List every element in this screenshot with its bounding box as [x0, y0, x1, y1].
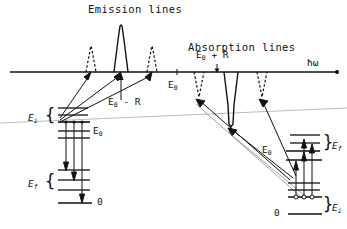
- axis-mark-E0-minus-R: E0 - R: [108, 97, 141, 109]
- figure-canvas: Emission lines Absorption lines ħω E0 + …: [0, 0, 347, 229]
- E0-plus-R-tail: + R: [206, 49, 229, 60]
- E0-minus-R-tail: - R: [118, 96, 141, 107]
- absorption-main-peak: [224, 72, 238, 127]
- absorption-sideband-right: [257, 72, 267, 97]
- right-Ei-sub: i: [338, 207, 342, 215]
- right-E0-sub: 0: [268, 149, 272, 157]
- E0-mid-sub: 0: [174, 84, 178, 92]
- emission-main-peak: [114, 25, 128, 72]
- left-E0-label: E0: [93, 126, 103, 138]
- ground-level-zero-right: 0: [274, 208, 280, 218]
- right-Ei-label: Ei: [332, 203, 342, 215]
- left-Ei-label: Ei: [28, 113, 38, 125]
- ground-level-zero-left: 0: [97, 197, 103, 207]
- right-Ef-sub: f: [338, 145, 342, 153]
- level-scheme-right: [286, 135, 322, 214]
- left-Ef-brace: {: [45, 173, 55, 190]
- cross-figure-guides: [196, 104, 305, 196]
- axis-label-hbar-omega: ħω: [307, 58, 318, 68]
- emission-title: Emission lines: [88, 4, 182, 15]
- left-Ef-label: Ef: [28, 179, 38, 191]
- emission-sideband-right: [147, 46, 157, 72]
- emission-sideband-left: [86, 46, 96, 72]
- axis-mark-E0-plus-R: E0 + R: [196, 50, 229, 62]
- level-scheme-left: [58, 108, 92, 203]
- left-Ei-brace: {: [45, 107, 55, 124]
- left-Ei-sub: i: [34, 117, 38, 125]
- axis-mark-E0: E0: [168, 80, 178, 92]
- right-Ef-label: Ef: [332, 141, 342, 153]
- absorption-sideband-left: [194, 72, 204, 97]
- axis-end-dot: [335, 70, 339, 74]
- right-E0-label: E0: [262, 145, 272, 157]
- left-E0-sub: 0: [99, 130, 103, 138]
- left-Ef-sub: f: [34, 183, 38, 191]
